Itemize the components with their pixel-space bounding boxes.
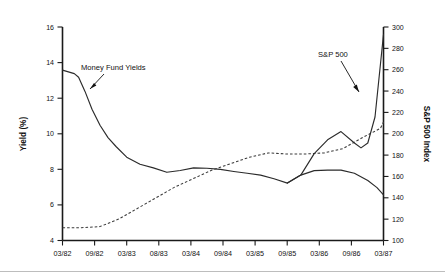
x-tick-label-7: 09/85 — [278, 249, 296, 258]
left-tick-label-12: 12 — [46, 95, 54, 102]
right-tick-label-100: 100 — [392, 237, 404, 244]
x-tick-label-4: 03/84 — [182, 249, 200, 258]
right-tick-label-220: 220 — [392, 109, 404, 116]
right-tick-label-180: 180 — [392, 152, 404, 159]
x-tick-label-6: 03/85 — [246, 249, 264, 258]
chart-background — [0, 0, 445, 280]
sp500-annotation-label: S&P 500 — [318, 50, 348, 59]
x-tick-label-10: 03/87 — [375, 249, 393, 258]
right-tick-label-120: 120 — [392, 216, 404, 223]
left-tick-label-10: 10 — [46, 130, 54, 137]
dual-axis-line-chart: 16 14 12 10 8 6 4 300 280 260 240 — [0, 0, 445, 280]
right-tick-label-240: 240 — [392, 88, 404, 95]
right-tick-label-260: 260 — [392, 66, 404, 73]
left-tick-label-4: 4 — [50, 237, 54, 244]
right-tick-label-160: 160 — [392, 173, 404, 180]
right-tick-label-280: 280 — [392, 45, 404, 52]
money-fund-yields-annotation-label: Money Fund Yields — [81, 63, 146, 72]
y-axis-title: Yield (%) — [19, 117, 28, 152]
right-tick-label-140: 140 — [392, 194, 404, 201]
y2-axis-title: S&P 500 Index — [422, 106, 431, 163]
x-tick-label-8: 03/86 — [310, 249, 328, 258]
right-tick-label-200: 200 — [392, 130, 404, 137]
x-tick-label-9: 09/86 — [342, 249, 360, 258]
x-tick-label-1: 09/82 — [86, 249, 104, 258]
left-tick-label-8: 8 — [50, 166, 54, 173]
x-tick-label-2: 03/83 — [118, 249, 136, 258]
left-tick-label-14: 14 — [46, 59, 54, 66]
right-tick-label-300: 300 — [392, 24, 404, 31]
left-tick-label-16: 16 — [46, 24, 54, 31]
x-tick-label-5: 09/84 — [214, 249, 232, 258]
x-tick-label-0: 03/82 — [54, 249, 72, 258]
left-tick-label-6: 6 — [50, 201, 54, 208]
x-tick-label-3: 08/83 — [150, 249, 168, 258]
chart-figure: 16 14 12 10 8 6 4 300 280 260 240 — [0, 0, 445, 280]
